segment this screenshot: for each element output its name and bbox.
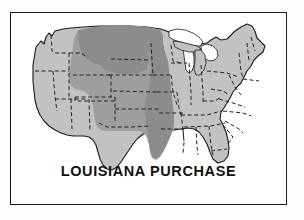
figure-frame: LOUISIANA PURCHASE [10,12,287,205]
figure-root: LOUISIANA PURCHASE [0,0,304,220]
boundary-nc-va [223,111,251,116]
dakotas-dark-patch [99,44,149,74]
map-caption: LOUISIANA PURCHASE [11,163,286,179]
boundary-ma-ct-ri [243,79,259,81]
